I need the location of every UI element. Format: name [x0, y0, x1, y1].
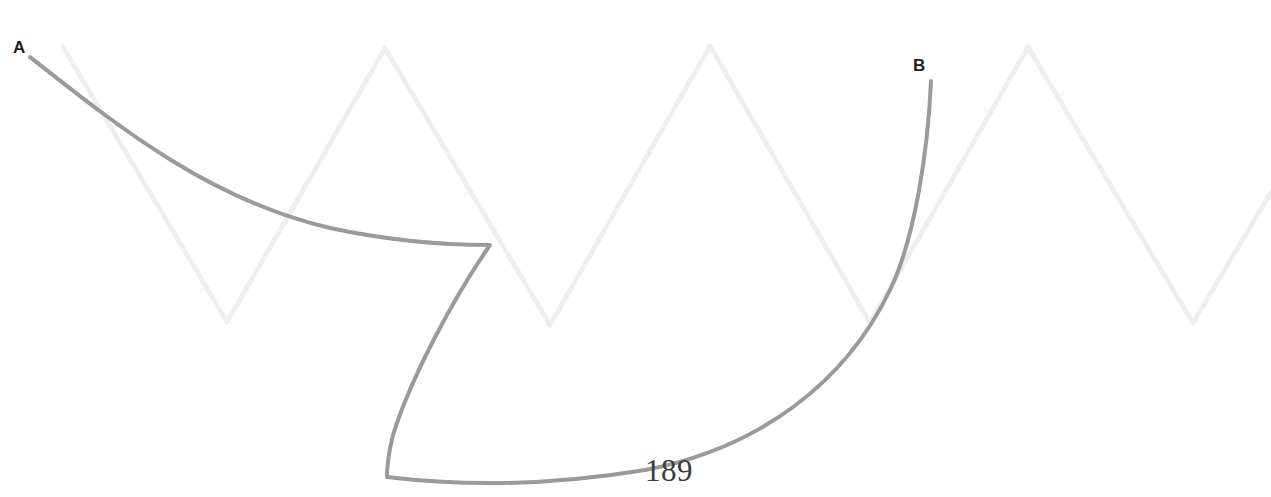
figure-number: 189 [645, 455, 693, 486]
background-zigzag-path [63, 46, 1271, 325]
primary-curve-path [30, 57, 931, 483]
point-label-a: A [13, 39, 25, 56]
figure-canvas-container: A B 189 [0, 0, 1271, 497]
figure-svg [0, 0, 1271, 497]
point-label-b: B [913, 57, 925, 74]
